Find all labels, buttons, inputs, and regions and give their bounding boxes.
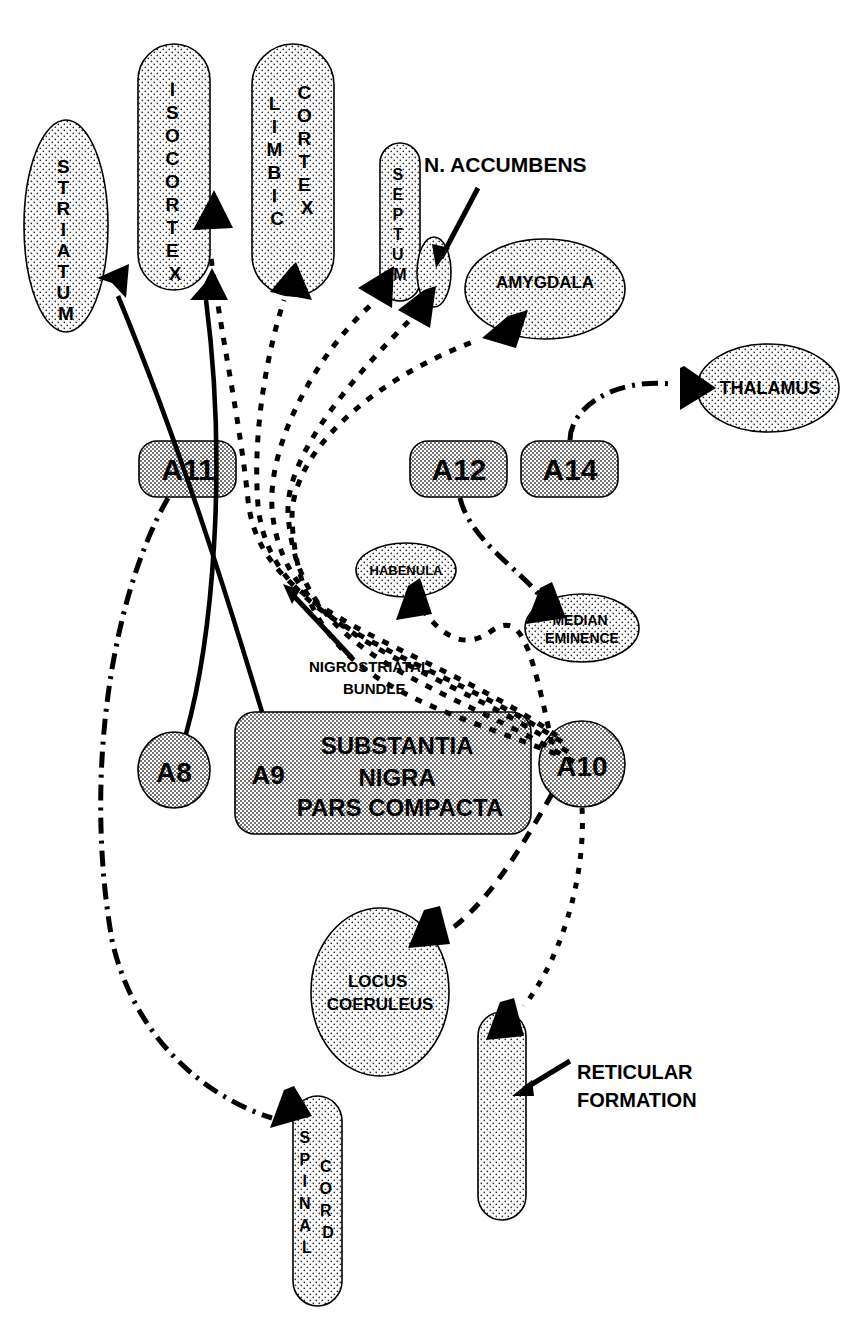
a8-label: A8 <box>156 757 192 788</box>
limbic-cortex-shape <box>252 44 334 296</box>
n-accumbens-label: N. ACCUMBENS <box>424 153 587 176</box>
diagram-canvas: S T R I A T U M I S O C O R T E X L I <box>0 0 857 1324</box>
node-reticular-formation-body[interactable] <box>478 1012 526 1220</box>
node-thalamus[interactable]: THALAMUS <box>697 344 839 432</box>
a10-label: A10 <box>556 751 607 782</box>
reticular-formation-shape <box>478 1012 526 1220</box>
node-a11[interactable]: A11 <box>139 441 236 497</box>
isocortex-label: I S O C O R T E X <box>165 79 185 284</box>
node-spinal-cord[interactable]: S P I N A L C O R D <box>293 1096 342 1306</box>
node-limbic-cortex[interactable]: L I M B I C C O R T E X <box>252 44 334 296</box>
a12-label: A12 <box>431 453 486 486</box>
node-a14[interactable]: A14 <box>521 441 618 497</box>
thalamus-label: THALAMUS <box>720 378 821 398</box>
node-striatum[interactable]: S T R I A T U M <box>24 120 108 332</box>
node-a12[interactable]: A12 <box>410 441 507 497</box>
habenula-label: HABENULA <box>370 563 444 578</box>
a9-label: A9 <box>251 760 284 790</box>
a14-label: A14 <box>542 453 597 486</box>
node-habenula[interactable]: HABENULA <box>356 543 456 597</box>
node-substantia-nigra[interactable]: SUBSTANTIA NIGRA PARS COMPACTA A9 <box>235 712 531 834</box>
amygdala-label: AMYGDALA <box>496 273 594 292</box>
striatum-label: S T R I A T U M <box>56 156 75 324</box>
node-a8[interactable]: A8 <box>138 732 210 808</box>
node-isocortex[interactable]: I S O C O R T E X <box>138 44 210 290</box>
node-amygdala[interactable]: AMYGDALA <box>465 239 625 339</box>
dopaminergic-pathways-diagram: S T R I A T U M I S O C O R T E X L I <box>0 0 857 1324</box>
